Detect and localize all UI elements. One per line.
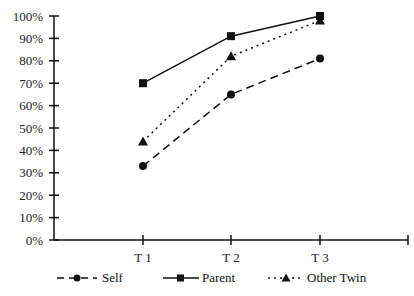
- legend-label-other-twin: Other Twin: [307, 270, 366, 286]
- y-tick-label: 80%: [19, 53, 43, 68]
- data-point-triangle: [138, 136, 148, 145]
- legend-item-self: Self: [55, 270, 123, 286]
- legend-label-parent: Parent: [202, 270, 235, 286]
- legend: Self Parent Other Twin: [55, 270, 395, 290]
- legend-item-other-twin: Other Twin: [268, 270, 366, 286]
- data-point-square: [139, 79, 147, 87]
- series-line-self: [143, 59, 320, 167]
- y-tick-label: 60%: [19, 98, 43, 113]
- data-point-triangle: [226, 51, 236, 60]
- data-point-square: [227, 32, 235, 40]
- legend-item-parent: Parent: [163, 270, 235, 286]
- x-tick-label: T 3: [311, 250, 328, 265]
- y-tick-label: 20%: [19, 188, 43, 203]
- series-line-parent: [143, 16, 320, 83]
- dotted-triangle-marker-icon: [268, 272, 304, 284]
- y-tick-label: 0%: [26, 233, 44, 248]
- data-point-circle: [227, 90, 235, 98]
- x-tick-label: T 2: [222, 250, 239, 265]
- y-tick-label: 40%: [19, 143, 43, 158]
- data-point-circle: [139, 162, 147, 170]
- y-tick-label: 70%: [19, 76, 43, 91]
- line-chart: 0%10%20%30%40%50%60%70%80%90%100%T 1T 2T…: [0, 0, 414, 270]
- y-tick-label: 30%: [19, 165, 43, 180]
- y-tick-label: 90%: [19, 31, 43, 46]
- data-point-circle: [316, 55, 324, 63]
- y-tick-label: 50%: [19, 121, 43, 136]
- y-tick-label: 10%: [19, 210, 43, 225]
- x-tick-label: T 1: [134, 250, 151, 265]
- legend-label-self: Self: [102, 270, 123, 286]
- solid-square-marker-icon: [163, 272, 199, 284]
- dashed-circle-marker-icon: [55, 272, 99, 284]
- y-tick-label: 100%: [13, 9, 44, 24]
